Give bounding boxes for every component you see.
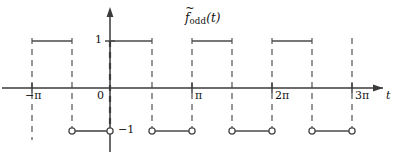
open-circle-origin bbox=[107, 128, 113, 134]
x-tick-label-2pi: 2π bbox=[275, 89, 289, 102]
open-circle-pi bbox=[189, 128, 195, 134]
open-circle-2pi bbox=[269, 128, 275, 134]
open-circle-3halfpi bbox=[229, 128, 235, 134]
open-circle-3pi bbox=[349, 128, 355, 134]
y-value-label-negative-one: −1 bbox=[118, 123, 134, 136]
x-axis-label: t bbox=[386, 89, 390, 102]
open-circle-halfpi bbox=[149, 128, 155, 134]
x-tick-label-neg-pi: −π bbox=[25, 89, 41, 102]
open-circle-5halfpi bbox=[309, 128, 315, 134]
t-axis-arrowhead bbox=[373, 85, 383, 92]
x-tick-label-origin: 0 bbox=[97, 89, 104, 102]
function-label-base: f bbox=[185, 11, 189, 25]
y-value-label-one: 1 bbox=[95, 33, 102, 46]
open-circle-neg-halfpi bbox=[69, 128, 75, 134]
function-label: fodd(t) bbox=[185, 11, 220, 26]
open-endpoint-circles bbox=[69, 128, 355, 134]
function-label-argument: (t) bbox=[206, 11, 220, 25]
function-label-subscript: odd bbox=[189, 16, 206, 26]
x-tick-label-pi: π bbox=[195, 89, 202, 102]
figure-canvas: −π 0 π 2π 3π t 1 −1 fodd(t) bbox=[0, 0, 403, 161]
x-tick-label-3pi: 3π bbox=[355, 89, 369, 102]
y-axis-arrowhead bbox=[107, 7, 114, 17]
